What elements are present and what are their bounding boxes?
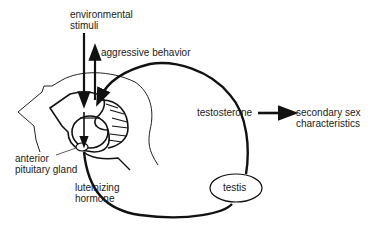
- label-line: stimuli: [70, 20, 133, 31]
- label-line: environmental: [70, 9, 133, 20]
- aggressive-behavior-label: aggressive behavior: [101, 47, 191, 58]
- label-line: pituitary gland: [15, 164, 77, 175]
- label-line: characteristics: [296, 118, 360, 129]
- label-line: secondary sex: [296, 107, 360, 118]
- testis-label: testis: [223, 182, 246, 193]
- luteinizing-hormone-label: luteinizing hormone: [75, 182, 119, 204]
- label-line: anterior: [15, 153, 77, 164]
- anterior-pituitary-label: anterior pituitary gland: [15, 153, 77, 175]
- testosterone-label: testosterone: [197, 107, 252, 118]
- label-line: hormone: [75, 193, 119, 204]
- environmental-stimuli-label: environmental stimuli: [70, 9, 133, 31]
- label-line: luteinizing: [75, 182, 119, 193]
- pituitary-gland: [76, 143, 88, 151]
- secondary-sex-label: secondary sex characteristics: [296, 107, 360, 129]
